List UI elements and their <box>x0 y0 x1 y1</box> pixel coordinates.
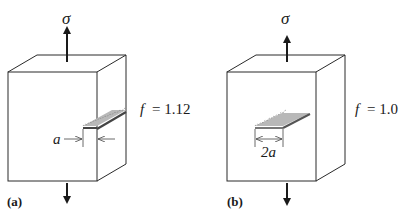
internal-crack <box>255 110 310 128</box>
dimension-a <box>64 129 115 147</box>
diagram-canvas: a σ f = 1.12 (a) <box>0 0 412 216</box>
panel-label-b: (b) <box>227 194 243 209</box>
dimension-label-a: a <box>53 131 61 147</box>
dimension-label-2a: 2a <box>261 144 276 160</box>
factor-symbol: f <box>355 101 361 117</box>
factor-value: = 1.12 <box>152 101 190 117</box>
stress-symbol-b: σ <box>281 9 290 28</box>
factor-symbol: f <box>140 101 146 117</box>
factor-label-a: f = 1.12 <box>140 101 190 117</box>
panel-label-a: (a) <box>7 194 22 209</box>
factor-label-b: f = 1.0 <box>355 101 398 117</box>
panel-b: 2a σ f = 1.0 (b) <box>227 9 398 209</box>
edge-crack <box>83 108 127 129</box>
panel-a: a σ f = 1.12 (a) <box>7 9 190 209</box>
factor-value: = 1.0 <box>367 101 398 117</box>
stress-symbol-a: σ <box>62 9 71 28</box>
